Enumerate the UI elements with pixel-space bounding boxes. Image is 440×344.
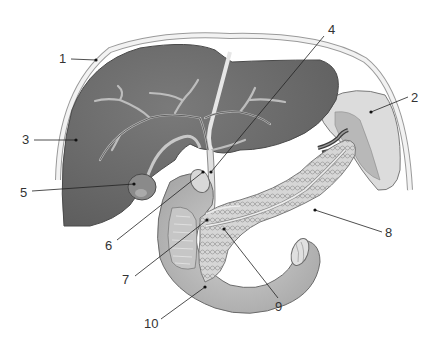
label-3: 3 [22,133,29,146]
label-10: 10 [144,317,158,330]
label-6: 6 [105,239,112,252]
label-7: 7 [122,273,129,286]
gallbladder [128,174,156,200]
label-2: 2 [411,91,418,104]
label-8: 8 [385,226,392,239]
leader-10 [161,287,205,319]
label-4: 4 [328,23,335,36]
label-5: 5 [20,186,27,199]
leader-1 [71,59,96,60]
leader-8 [315,210,382,232]
label-1: 1 [59,52,66,65]
pancreas [199,140,356,282]
label-9: 9 [275,300,282,313]
